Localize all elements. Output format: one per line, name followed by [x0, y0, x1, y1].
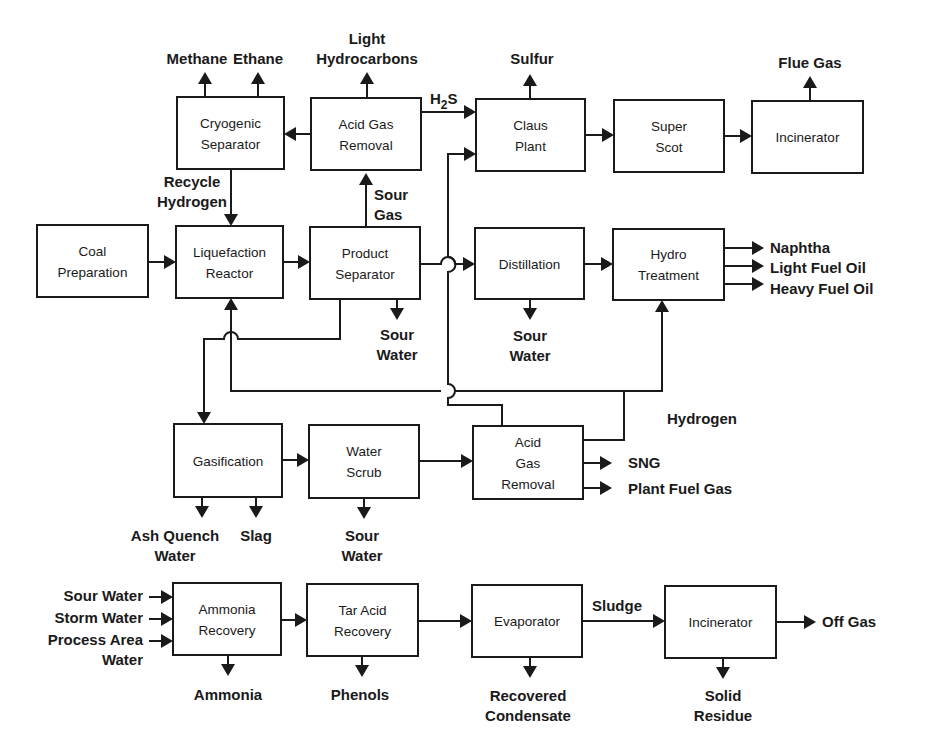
box-label-line: Acid Gas — [339, 117, 394, 132]
box-label-line: Recovery — [198, 623, 255, 638]
label-flue-gas: Flue Gas — [778, 54, 841, 71]
box-label-line: Cryogenic — [200, 116, 261, 131]
arrowhead — [295, 613, 307, 627]
label-line: Sludge — [592, 597, 642, 614]
label-line: Recycle — [164, 173, 221, 190]
label-light-hydrocarbons: LightHydrocarbons — [316, 30, 418, 67]
box-outline — [177, 97, 284, 169]
label-line: Recovered — [490, 687, 567, 704]
arrowhead — [655, 300, 669, 312]
arrowhead — [249, 506, 263, 518]
box-outline — [173, 583, 281, 655]
box-outline — [310, 227, 420, 299]
arrowhead — [355, 665, 369, 677]
label-ash-quench-water: Ash QuenchWater — [131, 527, 219, 564]
label-solid-residue: SolidResidue — [694, 687, 752, 724]
arrowhead — [298, 255, 310, 269]
label-slag: Slag — [240, 527, 272, 544]
box-label-line: Ammonia — [198, 602, 256, 617]
box-label-line: Liquefaction — [193, 245, 266, 260]
arrowhead — [601, 257, 613, 271]
arrowhead — [463, 257, 475, 271]
box-label-line: Separator — [201, 137, 261, 152]
label-line: Hydrogen — [667, 410, 737, 427]
label-line: Off Gas — [822, 613, 876, 630]
label-process-area-water-in: Process AreaWater — [48, 631, 144, 668]
arrowhead — [752, 259, 764, 273]
box-label-line: Gasification — [193, 454, 264, 469]
label-line: Ammonia — [194, 686, 263, 703]
box-label-line: Gas — [516, 456, 541, 471]
arrowhead — [740, 129, 752, 143]
box-incinerator-bottom: Incinerator — [665, 586, 776, 658]
arrowhead — [653, 614, 665, 628]
arrowhead — [752, 277, 764, 291]
arrowhead — [161, 590, 173, 604]
label-line: Flue Gas — [778, 54, 841, 71]
label-ethane: Ethane — [233, 50, 283, 67]
label-line: Light — [349, 30, 386, 47]
box-cryogenic-separator: CryogenicSeparator — [177, 97, 284, 169]
arrowhead — [716, 667, 730, 679]
box-evaporator: Evaporator — [472, 585, 582, 657]
label-heavy-fuel-oil: Heavy Fuel Oil — [770, 280, 873, 297]
box-label-line: Recovery — [334, 624, 391, 639]
label-line: Light Fuel Oil — [770, 259, 866, 276]
label-line: Water — [509, 347, 550, 364]
label-methane: Methane — [167, 50, 228, 67]
arrowhead — [523, 666, 537, 678]
label-line: Process Area — [48, 631, 144, 648]
arrowhead — [197, 412, 211, 424]
arrowhead — [464, 147, 476, 161]
label-sour-water-distillation: SourWater — [509, 327, 550, 364]
box-acid-gas-removal-mid: AcidGasRemoval — [473, 426, 583, 499]
label-sludge: Sludge — [592, 597, 642, 614]
label-line: Methane — [167, 50, 228, 67]
box-label-line: Separator — [335, 267, 395, 282]
label-line: Sour — [345, 527, 379, 544]
box-label-line: Scot — [655, 140, 682, 155]
box-outline — [176, 226, 283, 298]
arrowhead — [804, 615, 816, 629]
label-line: Sour — [374, 186, 408, 203]
box-label-line: Acid — [515, 435, 541, 450]
arrowhead — [752, 241, 764, 255]
box-label-line: Tar Acid — [338, 603, 386, 618]
arrowhead — [359, 173, 373, 185]
label-line: Sour — [513, 327, 547, 344]
box-label-line: Water — [346, 444, 382, 459]
label-line: Hydrogen — [157, 193, 227, 210]
label-line: Water — [376, 346, 417, 363]
box-label-line: Coal — [79, 244, 107, 259]
label-line: Condensate — [485, 707, 571, 724]
label-off-gas: Off Gas — [822, 613, 876, 630]
label-sulfur: Sulfur — [510, 50, 553, 67]
box-outline — [311, 98, 421, 170]
arrowhead — [600, 456, 612, 470]
label-sour-gas: SourGas — [374, 186, 408, 223]
arrowhead — [523, 74, 537, 86]
arrowhead — [164, 255, 176, 269]
box-label-line: Hydro — [650, 247, 686, 262]
arrowhead — [195, 506, 209, 518]
arrowhead — [600, 481, 612, 495]
box-distillation: Distillation — [475, 228, 584, 299]
arrowhead — [602, 128, 614, 142]
box-super-scot: SuperScot — [614, 100, 724, 172]
box-claus-plant: ClausPlant — [476, 99, 585, 171]
label-line: Solid — [705, 687, 742, 704]
label-line: SNG — [628, 454, 661, 471]
box-acid-gas-removal-top: Acid GasRemoval — [311, 98, 421, 170]
box-gasification: Gasification — [174, 424, 282, 497]
label-recycle-hydrogen: RecycleHydrogen — [157, 173, 227, 210]
label-line: Residue — [694, 707, 752, 724]
label-line: Water — [154, 547, 195, 564]
box-outline — [614, 100, 724, 172]
label-line: Ash Quench — [131, 527, 219, 544]
arrowhead — [224, 214, 238, 226]
label-line: Phenols — [331, 686, 389, 703]
box-outline — [37, 225, 148, 297]
box-label-line: Evaporator — [494, 614, 561, 629]
label-line: Heavy Fuel Oil — [770, 280, 873, 297]
arrowhead — [523, 308, 537, 320]
